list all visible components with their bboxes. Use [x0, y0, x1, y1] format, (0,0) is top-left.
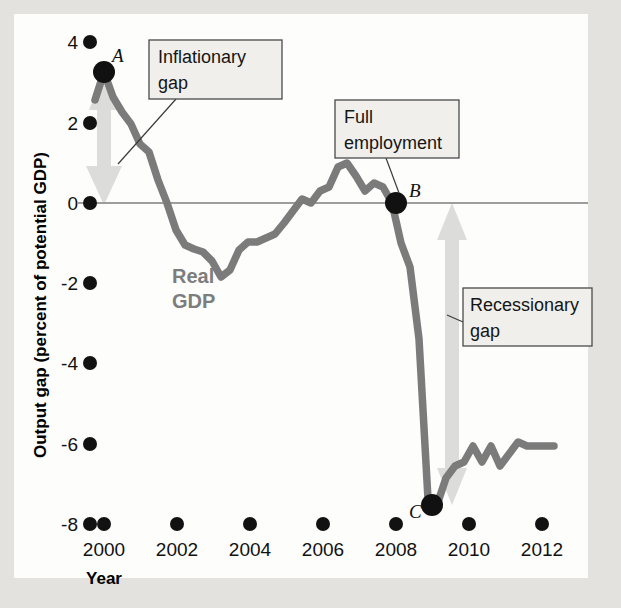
y-tick-dot-n6	[83, 437, 97, 451]
y-tick-dot-4	[83, 35, 97, 49]
callout-inflationary-line2: gap	[158, 73, 188, 93]
series-label-line2: GDP	[172, 290, 215, 312]
x-tick-label-2004: 2004	[229, 539, 272, 560]
chart-figure: 4 2 0 -2 -4 -6 -8 2000 2002 2004 2006 20…	[0, 0, 621, 608]
x-tick-marks	[97, 517, 549, 531]
callout-full-employment-line1: Full	[344, 107, 373, 127]
callout-recessionary-line2: gap	[470, 321, 500, 341]
series-label-line1: Real	[172, 265, 214, 287]
marker-label-b: B	[409, 180, 421, 201]
callout-recessionary-line1: Recessionary	[470, 295, 579, 315]
x-tick-dot-2010	[462, 517, 476, 531]
marker-label-c: C	[409, 501, 422, 522]
y-tick-dot-2	[83, 116, 97, 130]
callout-inflationary-line1: Inflationary	[158, 47, 246, 67]
marker-dot-b[interactable]	[385, 192, 407, 214]
y-tick-labels: 4 2 0 -2 -4 -6 -8	[61, 32, 78, 535]
y-tick-dot-n2	[83, 276, 97, 290]
marker-label-a: A	[110, 45, 124, 66]
x-tick-dot-2012	[535, 517, 549, 531]
y-tick-dot-n4	[83, 356, 97, 370]
real-gdp-series-label: Real GDP	[172, 265, 215, 312]
y-tick-label-n2: -2	[61, 273, 78, 294]
x-tick-label-2002: 2002	[156, 539, 198, 560]
y-tick-dot-0	[83, 196, 97, 210]
y-tick-label-n4: -4	[61, 353, 78, 374]
x-axis-title: Year	[86, 569, 122, 588]
y-tick-label-2: 2	[67, 113, 78, 134]
y-tick-label-0: 0	[67, 193, 78, 214]
x-tick-dot-2000	[97, 517, 111, 531]
marker-dot-c[interactable]	[421, 494, 443, 516]
x-tick-label-2010: 2010	[448, 539, 490, 560]
y-tick-label-4: 4	[67, 32, 78, 53]
x-tick-label-2008: 2008	[375, 539, 417, 560]
y-tick-dot-n8	[83, 517, 97, 531]
callout-recessionary-gap[interactable]: Recessionary gap	[447, 288, 592, 346]
x-tick-dot-2004	[243, 517, 257, 531]
callout-full-employment-line2: employment	[344, 133, 442, 153]
x-tick-label-2000: 2000	[83, 539, 125, 560]
y-tick-label-n6: -6	[61, 434, 78, 455]
y-axis-title: Output gap (percent of potential GDP)	[31, 152, 50, 458]
x-tick-dot-2008	[389, 517, 403, 531]
x-tick-dot-2006	[316, 517, 330, 531]
x-tick-label-2006: 2006	[302, 539, 344, 560]
x-tick-labels: 2000 2002 2004 2006 2008 2010 2012	[83, 539, 563, 560]
x-tick-dot-2002	[170, 517, 184, 531]
chart-svg: 4 2 0 -2 -4 -6 -8 2000 2002 2004 2006 20…	[0, 0, 621, 608]
x-tick-label-2012: 2012	[521, 539, 563, 560]
inflationary-gap-arrow	[86, 72, 122, 205]
y-tick-label-n8: -8	[61, 514, 78, 535]
leader-line-full-employment	[386, 158, 399, 193]
